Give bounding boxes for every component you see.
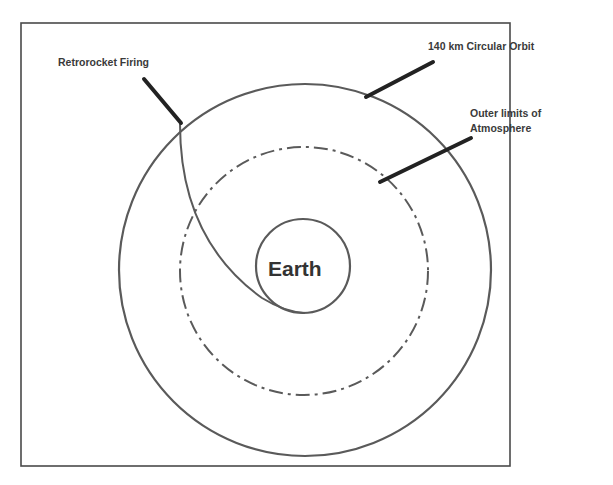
label-circular-orbit: 140 km Circular Orbit [428, 40, 535, 52]
leader-line-retrorocket [144, 79, 181, 123]
deorbit-diagram: Retrorocket Firing 140 km Circular Orbit… [0, 0, 613, 485]
label-atmosphere-line1: Outer limits of [470, 107, 542, 119]
reentry-trajectory [180, 124, 305, 313]
leader-line-orbit [366, 62, 433, 97]
diagram-frame [21, 23, 510, 466]
label-retrorocket-firing: Retrorocket Firing [58, 56, 149, 68]
leader-line-atmosphere [380, 138, 471, 182]
label-earth: Earth [268, 257, 322, 280]
label-atmosphere-line2: Atmosphere [470, 122, 531, 134]
